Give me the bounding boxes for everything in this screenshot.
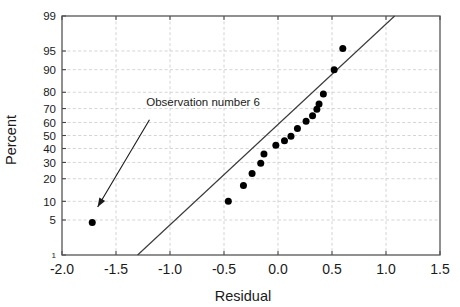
data-point bbox=[272, 142, 279, 149]
y-tick-label: 20 bbox=[43, 173, 56, 185]
y-tick-label: 40 bbox=[43, 143, 56, 155]
y-tick-label: 50 bbox=[43, 130, 56, 142]
y-tick-label: 95 bbox=[43, 45, 56, 57]
x-tick-label: 1.5 bbox=[430, 261, 450, 277]
y-tick-label: 10 bbox=[43, 196, 56, 208]
y-tick-label: 1 bbox=[52, 251, 57, 260]
data-point bbox=[89, 219, 96, 226]
x-axis-title: Residual bbox=[215, 288, 271, 304]
chart-canvas: Observation number 6 1510203040506070809… bbox=[0, 0, 460, 307]
data-point bbox=[320, 91, 327, 98]
x-tick-label: 0.5 bbox=[322, 261, 342, 277]
y-tick-label: 90 bbox=[43, 64, 56, 76]
data-point bbox=[331, 66, 338, 73]
y-tick-label: 30 bbox=[43, 157, 56, 169]
y-axis-title: Percent bbox=[3, 115, 19, 165]
x-tick-label: -2.0 bbox=[50, 261, 74, 277]
x-tick-label: -0.5 bbox=[212, 261, 236, 277]
y-tick-label: 99 bbox=[43, 10, 56, 22]
y-tick-label: 60 bbox=[43, 117, 56, 129]
data-point bbox=[339, 45, 346, 52]
data-point bbox=[309, 112, 316, 119]
data-point bbox=[316, 101, 323, 108]
x-tick-label: 1.0 bbox=[376, 261, 396, 277]
data-point bbox=[225, 198, 232, 205]
y-tick-label: 80 bbox=[43, 86, 56, 98]
x-tick-label: -1.5 bbox=[104, 261, 128, 277]
data-point bbox=[303, 118, 310, 125]
data-point bbox=[240, 182, 247, 189]
data-point bbox=[260, 150, 267, 157]
y-tick-label: 70 bbox=[43, 103, 56, 115]
x-tick-label: -1.0 bbox=[158, 261, 182, 277]
annotation-label: Observation number 6 bbox=[146, 96, 260, 108]
data-point bbox=[249, 170, 256, 177]
data-point bbox=[257, 160, 264, 167]
x-tick-label: 0.0 bbox=[268, 261, 288, 277]
normal-probability-plot: Observation number 6 1510203040506070809… bbox=[0, 0, 460, 307]
data-point bbox=[294, 125, 301, 132]
y-tick-label: 5 bbox=[50, 214, 56, 226]
data-point bbox=[281, 137, 288, 144]
data-point bbox=[287, 133, 294, 140]
